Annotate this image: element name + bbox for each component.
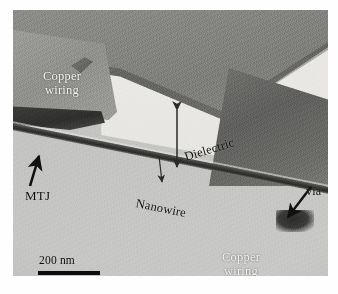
mtj-arrow [30,156,39,186]
label-copper-wiring-top: Copper wiring [43,69,81,97]
copper-wiring-top-line2: wiring [43,83,81,97]
nanowire-arrow [159,156,162,182]
copper-wiring-bottom-line1: Copper [222,250,260,264]
label-via: via [306,184,321,199]
copper-wiring-bottom-line2: wiring [222,264,260,276]
annotation-arrows [13,10,328,276]
copper-wiring-top-line1: Copper [43,69,81,83]
label-copper-wiring-bottom: Copper wiring [222,250,260,276]
scale-bar [38,271,100,275]
scale-bar-label: 200 nm [39,254,75,266]
figure-page: Copper wiring Copper wiring MTJ via Diel… [0,0,338,294]
tem-micrograph-image: Copper wiring Copper wiring MTJ via Diel… [13,10,328,276]
label-mtj: MTJ [25,188,50,204]
